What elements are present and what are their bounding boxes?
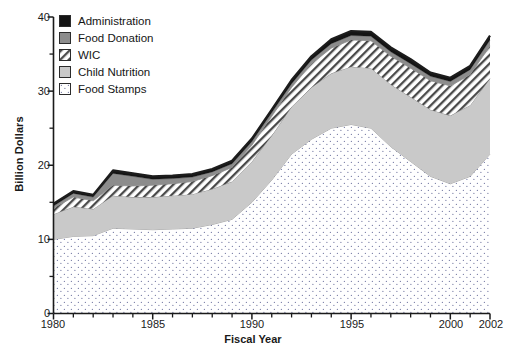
legend-label-administration: Administration — [78, 15, 151, 27]
x-axis-title: Fiscal Year — [0, 333, 506, 345]
legend-item-food-donation[interactable]: Food Donation — [59, 30, 153, 46]
legend-label-food-stamps: Food Stamps — [78, 83, 146, 95]
legend: Administration Food Donation WIC Child N… — [59, 13, 153, 98]
x-tick-label-1990: 1990 — [227, 318, 277, 330]
dark-gray-square-swatch-icon — [59, 32, 71, 44]
legend-item-food-stamps[interactable]: Food Stamps — [59, 81, 153, 97]
x-tick-label-2002: 2002 — [466, 318, 506, 330]
legend-label-wic: WIC — [78, 49, 100, 61]
hatched-square-swatch-icon — [59, 49, 71, 61]
black-square-swatch-icon — [59, 15, 71, 27]
y-tick-label-30: 30 — [20, 85, 50, 97]
y-tick-label-20: 20 — [20, 159, 50, 171]
legend-item-administration[interactable]: Administration — [59, 13, 153, 29]
legend-item-child-nutrition[interactable]: Child Nutrition — [59, 64, 153, 80]
y-tick-label-10: 10 — [20, 233, 50, 245]
y-axis-title: Billion Dollars — [13, 89, 25, 219]
light-gray-square-swatch-icon — [59, 66, 71, 78]
x-tick-label-1980: 1980 — [28, 318, 78, 330]
stacked-area-chart: Billion Dollars Fiscal Year 40 30 20 10 … — [0, 0, 506, 354]
x-tick-label-1985: 1985 — [128, 318, 178, 330]
x-tick-label-1995: 1995 — [327, 318, 377, 330]
legend-label-food-donation: Food Donation — [78, 32, 153, 44]
dotted-square-swatch-icon — [59, 83, 71, 95]
legend-label-child-nutrition: Child Nutrition — [78, 66, 150, 78]
y-tick-label-40: 40 — [20, 11, 50, 23]
legend-item-wic[interactable]: WIC — [59, 47, 153, 63]
